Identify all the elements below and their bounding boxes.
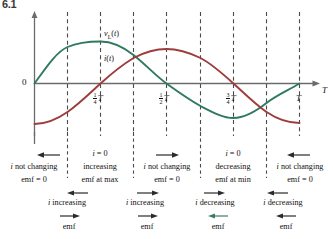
region-4-i-zero: i = 0	[225, 150, 240, 158]
emf-1-label: emf	[63, 223, 76, 231]
voltage-curve-label: vL(t)	[104, 30, 119, 40]
xtick-half-T: 12 T	[159, 92, 169, 106]
current-curve-label: i(t)	[104, 55, 114, 63]
row-emf-arrows	[0, 210, 333, 222]
region-1-arrow-left	[37, 152, 60, 157]
emf-4-label: emf	[280, 223, 293, 231]
region-5-arrow-left	[287, 152, 310, 157]
x-axis-arrowhead	[313, 80, 321, 86]
state-4-line2: emf at min	[215, 176, 250, 184]
state-3-line1: i not changing	[144, 163, 191, 171]
state-1-line2: emf = 0	[21, 176, 47, 184]
row-top-arrows	[0, 148, 333, 162]
current-1-label: i increasing	[48, 199, 86, 207]
state-2-line2: emf at max	[82, 176, 119, 184]
state-4-line1: decreasing	[215, 163, 250, 171]
current-3-arrow-right	[204, 190, 225, 195]
x-axis-label: T	[322, 86, 327, 95]
emf-1-arrow-right	[60, 213, 80, 218]
xtick-quarter-T: 14 T	[93, 92, 103, 106]
state-5-line1: i not changing	[277, 163, 324, 171]
emf-4-arrow-left	[276, 213, 296, 218]
xtick-three-quarter-T: 34 T	[226, 92, 236, 106]
emf-3-arrow-left	[208, 213, 228, 218]
gridline-group	[68, 12, 300, 136]
figure-number: 6.1	[2, 0, 16, 10]
current-2-label: i increasing	[126, 199, 164, 207]
current-3-label: i decreasing	[195, 199, 234, 207]
emf-2-label: emf	[141, 223, 154, 231]
region-3-arrow-right	[156, 152, 179, 157]
y-axis-arrowhead	[32, 11, 38, 18]
region-2-i-zero: i = 0	[92, 150, 107, 158]
current-4-arrow-left	[267, 190, 288, 195]
emf-2-arrow-right	[138, 213, 158, 218]
current-2-arrow-right	[137, 190, 159, 195]
state-1-line1: i not changing	[11, 163, 58, 171]
waveform-plot	[0, 0, 333, 136]
current-4-label: i decreasing	[263, 199, 302, 207]
emf-3-label: emf	[212, 223, 225, 231]
current-1-arrow-left	[67, 190, 88, 195]
state-2-line1: increasing	[83, 163, 117, 171]
xtick-T: T	[296, 94, 301, 103]
state-3-line2: emf = 0	[154, 176, 180, 184]
inductor-emf-figure: 6.1 vL(t) i(t) 0 T	[0, 0, 333, 239]
state-5-line2: emf = 0	[287, 176, 313, 184]
y-zero-label: 0	[22, 78, 27, 87]
